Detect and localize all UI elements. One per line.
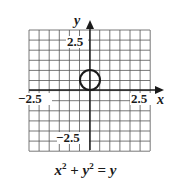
eq-x: x (55, 162, 63, 178)
y-axis-arrow-icon (86, 20, 94, 29)
x-axis-label: x (156, 92, 164, 107)
y-axis-label: y (72, 13, 81, 28)
y-tick-pos: 2.5 (67, 34, 84, 49)
x-tick-pos: 2.5 (131, 91, 148, 106)
y-tick-neg: −2.5 (56, 130, 80, 145)
eq-equals: = (94, 162, 110, 178)
equation-caption: x2 + y2 = y (0, 161, 171, 179)
eq-rhs: y (110, 162, 117, 178)
graph: 2.5 −2.5 2.5 −2.5 x y (0, 0, 171, 188)
eq-plus: + (67, 162, 83, 178)
x-tick-neg: −2.5 (18, 91, 42, 106)
